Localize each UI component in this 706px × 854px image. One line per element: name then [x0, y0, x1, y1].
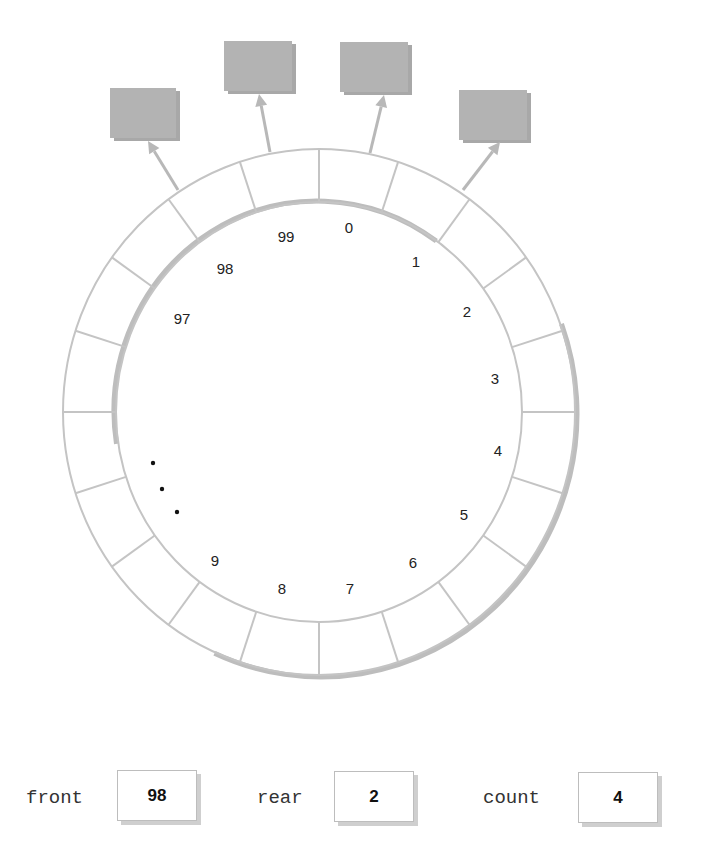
circular-queue-diagram: 0123456789979899 [0, 0, 706, 854]
count-label: count [483, 787, 540, 809]
slot-divider [512, 477, 562, 493]
slot-index-label: 2 [463, 303, 471, 320]
slot-divider [382, 612, 398, 662]
slot-divider [169, 199, 200, 242]
ellipsis-dot [175, 510, 179, 514]
slot-index-label: 7 [346, 580, 354, 597]
count-value: 4 [613, 788, 622, 808]
element-boxes [110, 41, 531, 143]
ring-outer-edge [63, 149, 575, 675]
slot-index-label: 1 [412, 253, 420, 270]
slot-divider [382, 162, 398, 212]
pointer-arrow [255, 94, 270, 152]
count-value-box: 4 [578, 772, 658, 823]
front-label: front [26, 787, 83, 809]
slot-divider [112, 535, 155, 566]
slot-divider [76, 477, 126, 493]
array-ring [63, 149, 577, 677]
element-box [110, 88, 180, 141]
slot-divider [483, 257, 526, 288]
ring-inner-edge [116, 202, 522, 622]
front-value: 98 [148, 786, 167, 806]
pointer-arrow [370, 95, 387, 153]
slot-index-label: 98 [217, 260, 234, 277]
ellipsis-dots [151, 461, 179, 514]
slot-divider [438, 582, 469, 625]
pointer-arrow [463, 142, 500, 190]
rear-label: rear [257, 787, 303, 809]
slot-index-label: 97 [174, 310, 191, 327]
slot-index-label: 5 [460, 506, 468, 523]
slot-index-label: 0 [345, 219, 353, 236]
slot-divider [438, 199, 469, 242]
pointer-arrow [148, 141, 178, 190]
slot-divider [483, 535, 526, 566]
rear-value-box: 2 [334, 771, 414, 822]
ellipsis-dot [160, 487, 164, 491]
slot-index-label: 99 [278, 228, 295, 245]
slot-index-label: 4 [494, 442, 502, 459]
rear-value: 2 [369, 787, 378, 807]
slot-divider [169, 582, 200, 625]
element-box [224, 41, 296, 94]
slot-index-label: 6 [409, 554, 417, 571]
slot-index-label: 3 [491, 370, 499, 387]
element-box [459, 90, 531, 143]
slot-divider [512, 331, 562, 347]
element-pointers [148, 94, 500, 190]
slot-divider [240, 612, 256, 662]
element-box [340, 42, 412, 95]
slot-index-label: 9 [211, 552, 219, 569]
slot-divider [76, 331, 126, 347]
slot-index-labels: 0123456789979899 [174, 219, 503, 597]
front-value-box: 98 [117, 770, 197, 821]
slot-divider [240, 162, 256, 212]
ellipsis-dot [151, 461, 155, 465]
slot-divider [112, 257, 155, 288]
slot-index-label: 8 [278, 580, 286, 597]
